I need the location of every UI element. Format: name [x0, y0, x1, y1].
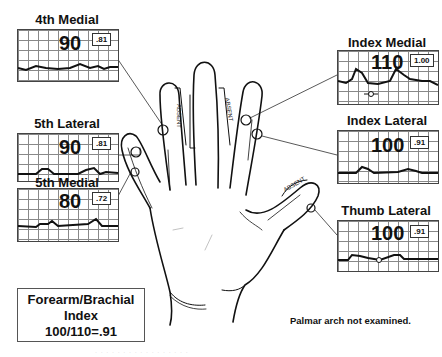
forearm-brachial-line2: Index [18, 308, 144, 324]
absent-label-thumb: ABSENT [283, 175, 307, 192]
panel-title-5th-lateral: 5th Lateral [17, 116, 117, 131]
absent-label-middle: ABSENT [224, 97, 234, 122]
pulse-waveform [338, 131, 438, 183]
panel-title-thumb-lateral: Thumb Lateral [330, 203, 442, 218]
pulse-waveform [18, 30, 118, 81]
pulse-waveform [18, 189, 118, 241]
forearm-brachial-line3: 100/110=.91 [18, 324, 144, 340]
faint-footer-text: · · · · · · · · · · · · · · · · · [95, 349, 189, 355]
pulse-waveform [338, 51, 438, 104]
panel-title-index-lateral: Index Lateral [337, 113, 437, 128]
forearm-brachial-index-box: Forearm/Brachial Index 100/110=.91 [17, 288, 145, 342]
waveform-panel-index-medial: 110 1.00 [337, 50, 439, 105]
panel-title-4th-medial: 4th Medial [17, 12, 117, 27]
pulse-waveform [338, 221, 438, 271]
palmar-arch-note: Palmar arch not examined. [290, 315, 411, 326]
forearm-brachial-line1: Forearm/Brachial [18, 292, 144, 308]
panel-title-index-medial: Index Medial [337, 35, 437, 50]
waveform-panel-thumb-lateral: 100 .91 [337, 220, 439, 272]
pulse-waveform [18, 134, 118, 181]
absent-label-ring: ABSENT [176, 104, 182, 128]
waveform-panel-5th-medial: 80 .72 [17, 188, 119, 242]
waveform-panel-index-lateral: 100 .91 [337, 130, 439, 184]
waveform-panel-4th-medial: 90 .81 [17, 29, 119, 82]
